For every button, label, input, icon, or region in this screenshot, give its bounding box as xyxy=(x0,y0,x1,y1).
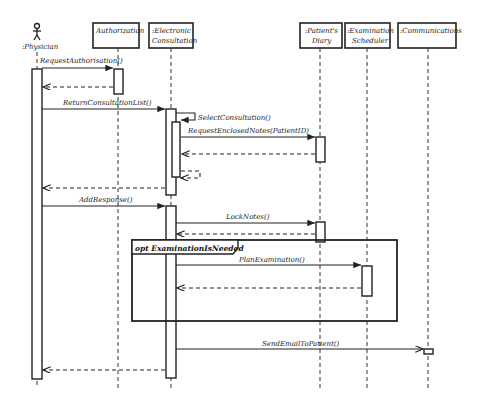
activation-authorization xyxy=(114,69,123,94)
svg-text:RequestAuthorisation(): RequestAuthorisation() xyxy=(39,57,123,65)
message-lock-notes: LockNotes() xyxy=(176,213,315,223)
activation-scheduler xyxy=(362,266,372,296)
participant-communications: :Communications xyxy=(398,23,462,48)
fragment-label: opt ExaminationIsNeeded xyxy=(135,244,244,253)
return-self-consultation xyxy=(181,171,200,178)
activation-diary-1 xyxy=(316,137,325,162)
message-request-enclosed-notes: RequestEnclosedNotes(PatientID) xyxy=(181,127,315,137)
svg-text:AddResponse(): AddResponse() xyxy=(78,196,133,204)
activation-physician xyxy=(32,69,42,379)
message-return-consultation-list: ReturnConsultationList() xyxy=(42,99,165,109)
activation-consultation-nested xyxy=(172,122,180,177)
activation-communications xyxy=(424,349,433,354)
participant-label: :Communications xyxy=(400,27,462,35)
message-select-consultation: SelectConsultation() xyxy=(176,113,271,122)
participant-label: Diary xyxy=(311,37,332,45)
message-request-authorisation: RequestAuthorisation() xyxy=(39,57,123,68)
svg-text:SelectConsultation(): SelectConsultation() xyxy=(198,114,271,122)
participant-scheduler: :Examination Scheduler xyxy=(345,23,394,48)
svg-text:PlanExamination(): PlanExamination() xyxy=(238,256,305,264)
participant-label: :Electronic xyxy=(152,27,191,35)
actor-physician: :Physician xyxy=(22,24,59,52)
message-add-response: AddResponse() xyxy=(42,196,165,206)
svg-text:ReturnConsultationList(): ReturnConsultationList() xyxy=(62,99,152,107)
participant-label: Authorization xyxy=(95,27,145,35)
participant-label: Consultation xyxy=(152,37,198,45)
participant-consultation: :Electronic Consultation xyxy=(149,23,198,48)
actor-head-icon xyxy=(35,24,40,29)
participant-authorization: Authorization xyxy=(93,23,145,48)
participant-label: :Physician xyxy=(22,43,59,51)
participant-diary: :Patient's Diary xyxy=(300,23,342,48)
activation-consultation-2 xyxy=(166,206,176,378)
svg-text:SendEmailToPatient(): SendEmailToPatient() xyxy=(262,340,339,348)
sequence-diagram: :Physician Authorization :Electronic Con… xyxy=(0,0,482,402)
activation-diary-2 xyxy=(316,222,325,242)
participant-label: Scheduler xyxy=(352,37,389,45)
participant-label: :Patient's xyxy=(305,27,338,35)
participant-label: :Examination xyxy=(347,27,394,35)
svg-text:RequestEnclosedNotes(PatientID: RequestEnclosedNotes(PatientID) xyxy=(187,127,309,135)
message-plan-examination: PlanExamination() xyxy=(176,256,361,265)
svg-text:LockNotes(): LockNotes() xyxy=(225,213,270,221)
message-send-email: SendEmailToPatient() xyxy=(176,340,423,349)
